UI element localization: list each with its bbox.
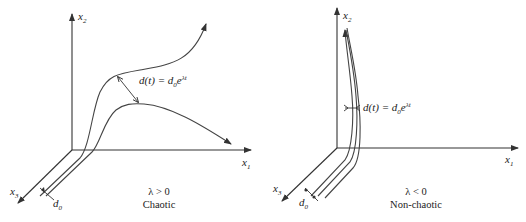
growth-formula: d(t) = d0eλt [363,101,412,116]
panel-chaotic: x2 x1 x3 d0 d(t) = d0eλt λ > 0 Chaotic [9,10,251,212]
x1-label: x1 [504,153,513,168]
d0-point-icon [304,188,307,191]
growth-formula: d(t) = d0eλt [139,74,188,89]
x3-label: x3 [9,185,19,200]
separation-arrow [118,77,138,102]
panel-caption: Non-chaotic [390,199,442,210]
panel-caption: Chaotic [143,199,176,210]
x2-label: x2 [77,10,87,25]
d0-label: d0 [53,197,63,212]
trajectory-upper [40,24,206,196]
x3-axis [18,150,72,203]
lyapunov-diagram: x2 x1 x3 d0 d(t) = d0eλt λ > 0 Chaotic x… [0,0,526,222]
panel-non-chaotic: x2 x1 x3 d0 d(t) = d0eλt λ < 0 Non-chaot… [272,8,518,211]
d0-point-icon [312,195,315,198]
trajectory-outer [311,30,353,196]
lambda-condition: λ < 0 [405,186,427,197]
d0-label: d0 [299,196,309,211]
x1-label: x1 [241,156,250,171]
x3-label: x3 [272,182,282,197]
trajectory-right [325,28,360,198]
lambda-condition: λ > 0 [148,186,170,197]
x2-label: x2 [342,9,352,24]
d0-arrowhead-icon [41,187,45,193]
